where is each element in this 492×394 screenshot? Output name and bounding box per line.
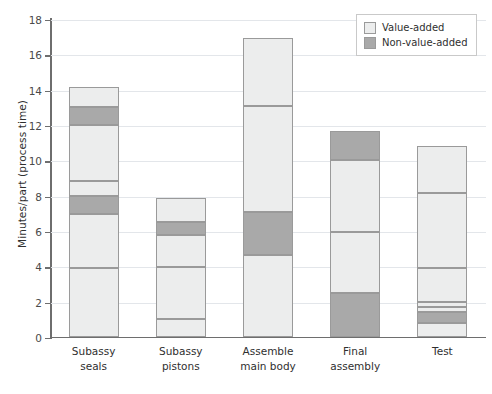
y-tick-label: 16 <box>12 50 42 61</box>
y-tick-label: 4 <box>12 262 42 273</box>
y-tick-label: 12 <box>12 121 42 132</box>
bar-segment-value-added[interactable] <box>330 160 380 232</box>
bar-segment-value-added[interactable] <box>417 302 467 307</box>
chart-legend: Value-added Non-value-added <box>356 14 477 56</box>
y-tick-label: 14 <box>12 86 42 97</box>
bar[interactable] <box>156 198 206 337</box>
bar-segment-value-added[interactable] <box>69 268 119 337</box>
bar-segment-value-added[interactable] <box>243 106 293 211</box>
y-tick-label: 8 <box>12 192 42 203</box>
y-axis-tick-labels: 024681012141618 <box>12 20 42 338</box>
bar-segment-value-added[interactable] <box>417 268 467 302</box>
y-tick-mark <box>45 91 50 92</box>
bar-segment-value-added[interactable] <box>69 214 119 268</box>
y-tick-label: 18 <box>12 15 42 26</box>
bar-segment-value-added[interactable] <box>330 232 380 293</box>
legend-item-non-value-added: Non-value-added <box>364 35 468 50</box>
bar-segment-non-value-added[interactable] <box>417 312 467 323</box>
legend-label-value-added: Value-added <box>382 22 444 33</box>
bar-segment-non-value-added[interactable] <box>156 222 206 235</box>
bar-segment-value-added[interactable] <box>156 319 206 337</box>
bar-segment-non-value-added[interactable] <box>69 196 119 215</box>
x-axis-label-line: assembly <box>300 359 410 374</box>
y-tick-label: 0 <box>12 333 42 344</box>
bar[interactable] <box>330 131 380 337</box>
bar-segment-non-value-added[interactable] <box>243 212 293 255</box>
y-tick-label: 2 <box>12 298 42 309</box>
legend-swatch-value-added <box>364 22 376 34</box>
bar-segment-value-added[interactable] <box>69 125 119 181</box>
legend-swatch-non-value-added <box>364 37 376 49</box>
bar-segment-value-added[interactable] <box>69 87 119 107</box>
y-axis-line <box>50 18 52 339</box>
y-tick-mark <box>45 338 50 339</box>
bar-segment-value-added[interactable] <box>69 181 119 196</box>
y-tick-label: 10 <box>12 156 42 167</box>
y-tick-mark <box>45 55 50 56</box>
bar-segment-value-added[interactable] <box>156 198 206 222</box>
y-tick-mark <box>45 267 50 268</box>
bar-segment-value-added[interactable] <box>156 267 206 319</box>
stacked-bar-chart: Minutes/part (process time) 024681012141… <box>0 0 492 394</box>
x-axis-label-line: Test <box>387 344 492 359</box>
bar[interactable] <box>69 87 119 337</box>
legend-item-value-added: Value-added <box>364 20 468 35</box>
bar-segment-value-added[interactable] <box>243 255 293 337</box>
y-tick-mark <box>45 126 50 127</box>
bar[interactable] <box>417 146 467 337</box>
bar-segment-value-added[interactable] <box>417 323 467 337</box>
bar-segment-value-added[interactable] <box>156 235 206 267</box>
bar-segment-value-added[interactable] <box>417 146 467 193</box>
bar-segment-value-added[interactable] <box>243 38 293 106</box>
y-tick-label: 6 <box>12 227 42 238</box>
bar-segment-value-added[interactable] <box>417 307 467 313</box>
bar-segment-non-value-added[interactable] <box>69 107 119 125</box>
bar[interactable] <box>243 38 293 337</box>
x-axis-category-labels: SubassysealsSubassypistonsAssemblemain b… <box>50 344 486 390</box>
bar-segment-non-value-added[interactable] <box>330 293 380 337</box>
y-tick-mark <box>45 161 50 162</box>
y-tick-mark <box>45 197 50 198</box>
y-tick-mark <box>45 232 50 233</box>
bar-segment-value-added[interactable] <box>417 193 467 268</box>
bar-segment-non-value-added[interactable] <box>330 131 380 160</box>
y-tick-mark <box>45 20 50 21</box>
x-axis-label: Test <box>387 344 492 359</box>
legend-label-non-value-added: Non-value-added <box>382 37 468 48</box>
y-tick-mark <box>45 303 50 304</box>
plot-area <box>50 20 486 338</box>
